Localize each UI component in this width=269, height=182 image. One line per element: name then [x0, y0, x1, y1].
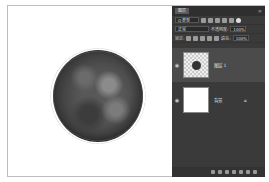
- mask-icon[interactable]: [225, 170, 229, 174]
- lock-icon: 🔒︎: [244, 97, 247, 104]
- layer-thumbnail: [183, 52, 209, 78]
- layer-name[interactable]: 图层 1: [214, 62, 226, 68]
- lock-row: 锁定: 填充: 100%: [172, 34, 265, 43]
- filter-smart-object-icon[interactable]: [229, 18, 234, 23]
- lock-artboard-icon[interactable]: [207, 36, 212, 41]
- fill-label: 填充:: [221, 35, 230, 41]
- opacity-label: 不透明度:: [211, 26, 228, 32]
- filter-row: Q 类型: [172, 16, 265, 25]
- panel-footer: [172, 167, 265, 177]
- lock-label: 锁定:: [175, 35, 184, 41]
- folder-icon[interactable]: [239, 170, 243, 174]
- lock-all-icon[interactable]: [214, 36, 219, 41]
- filter-type-icon[interactable]: [215, 18, 220, 23]
- new-layer-icon[interactable]: [246, 170, 250, 174]
- blend-mode-select[interactable]: 正常: [175, 26, 209, 32]
- eye-icon[interactable]: ◉: [173, 97, 181, 103]
- layers-panel: 图层 ≡ Q 类型 正常 不透明度: 100% 锁定: 填充: 100% ◉ 图…: [172, 6, 265, 177]
- eye-icon[interactable]: ◉: [173, 62, 181, 68]
- tree-image: [53, 50, 143, 142]
- panel-menu-icon[interactable]: ≡: [258, 8, 262, 14]
- lock-transparent-icon[interactable]: [186, 36, 191, 41]
- panel-header: 图层 ≡: [172, 6, 265, 16]
- document-canvas[interactable]: [8, 6, 173, 176]
- filter-kind-select[interactable]: Q 类型: [175, 17, 199, 23]
- trash-icon[interactable]: [253, 170, 257, 174]
- filter-adjustment-icon[interactable]: [208, 18, 213, 23]
- layer-name[interactable]: 背景: [214, 97, 222, 103]
- blend-row: 正常 不透明度: 100%: [172, 25, 265, 34]
- tab-layers[interactable]: 图层: [175, 8, 189, 14]
- layer-thumbnail: [183, 87, 209, 113]
- link-icon[interactable]: [211, 170, 215, 174]
- filter-shape-icon[interactable]: [222, 18, 227, 23]
- fx-icon[interactable]: [218, 170, 222, 174]
- filter-pixel-icon[interactable]: [201, 18, 206, 23]
- opacity-input[interactable]: 100%: [230, 26, 246, 32]
- lock-brush-icon[interactable]: [193, 36, 198, 41]
- layer-row[interactable]: ◉ 背景 🔒︎: [172, 83, 265, 117]
- adjustment-icon[interactable]: [232, 170, 236, 174]
- fill-input[interactable]: 100%: [233, 35, 249, 41]
- lock-move-icon[interactable]: [200, 36, 205, 41]
- filter-toggle-icon[interactable]: [236, 18, 241, 23]
- layer-row[interactable]: ◉ 图层 1: [172, 48, 265, 82]
